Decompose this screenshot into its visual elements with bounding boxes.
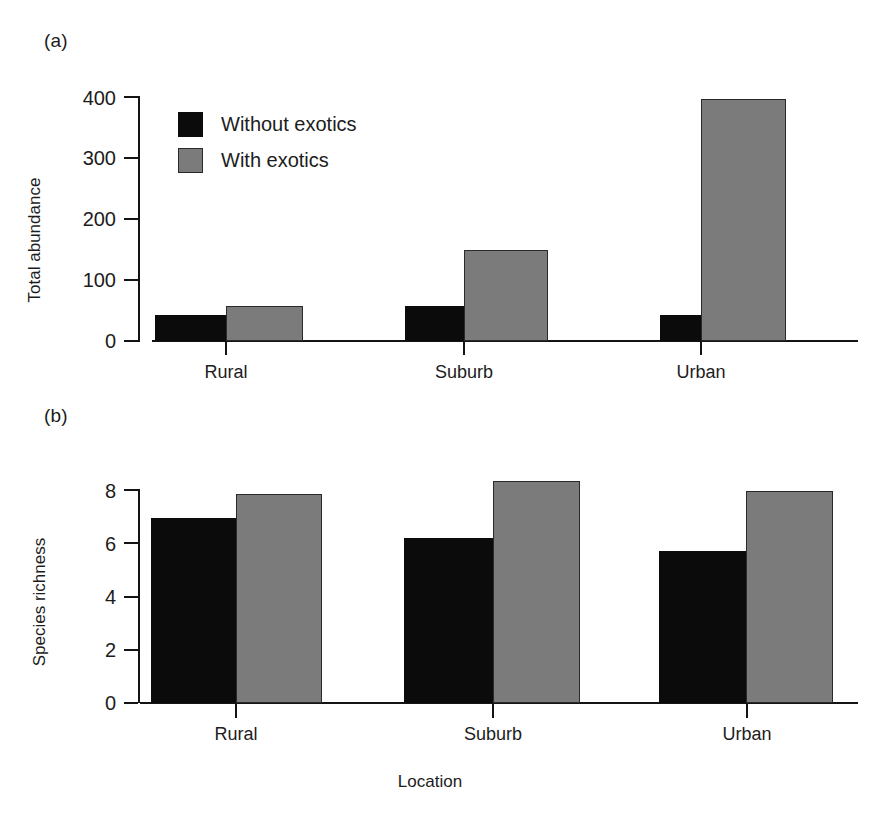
panel-a-tick-400	[124, 96, 138, 98]
panel-a-bar-suburb-with-exotics	[464, 250, 548, 341]
panel-b-tick-8	[124, 489, 138, 491]
panel-a-y-axis-label: Total abundance	[25, 150, 45, 330]
panel-b-xlabel-rural: Rural	[176, 724, 296, 745]
panel-b-tick-6	[124, 542, 138, 544]
panel-b-tick-0	[124, 702, 138, 704]
panel-b-label: (b)	[44, 405, 68, 427]
panel-b-tick-4	[124, 596, 138, 598]
panel-a-xtick-rural	[225, 342, 227, 355]
panel-b-ytick-6: 6	[58, 534, 116, 554]
panel-a-y-spine	[138, 96, 140, 342]
panel-a-tick-200	[124, 218, 138, 220]
panel-b-bar-urban-with-exotics	[746, 491, 833, 703]
panel-b-xlabel-urban: Urban	[687, 724, 807, 745]
panel-a-ytick-400: 400	[58, 88, 116, 108]
panel-b-tick-2	[124, 649, 138, 651]
legend-item-with-exotics: With exotics	[178, 148, 357, 173]
panel-b-y-axis-label: Species richness	[30, 512, 50, 692]
panel-a-bar-urban-with-exotics	[701, 99, 786, 341]
panel-b-bar-suburb-with-exotics	[493, 481, 580, 703]
panel-b-ytick-2: 2	[58, 640, 116, 660]
legend: Without exotics With exotics	[178, 112, 357, 184]
panel-a-ytick-300: 300	[58, 148, 116, 168]
panel-b-ytick-4: 4	[58, 587, 116, 607]
legend-label-without-exotics: Without exotics	[221, 113, 357, 136]
panel-a-ytick-0: 0	[58, 331, 116, 351]
panel-a-bar-rural-without-exotics	[155, 315, 226, 341]
panel-a-tick-0	[124, 340, 138, 342]
panel-b-bar-suburb-without-exotics	[404, 538, 493, 703]
panel-b-bar-rural-with-exotics	[236, 494, 322, 703]
figure-container: (a) Total abundance 400 300 200 100 0 Ru…	[0, 0, 870, 824]
legend-swatch-without-exotics	[178, 112, 203, 137]
panel-a-xlabel-suburb: Suburb	[404, 362, 524, 383]
panel-a-bar-suburb-without-exotics	[405, 306, 464, 341]
panel-a-ytick-200: 200	[58, 209, 116, 229]
panel-b-xtick-rural	[235, 704, 237, 718]
panel-a-xlabel-urban: Urban	[641, 362, 761, 383]
legend-label-with-exotics: With exotics	[221, 149, 329, 172]
panel-a-xtick-urban	[700, 342, 702, 355]
panel-b-xtick-urban	[746, 704, 748, 718]
panel-b-bar-rural-without-exotics	[151, 518, 236, 703]
panel-b-bar-urban-without-exotics	[659, 551, 746, 703]
panel-a-xtick-suburb	[463, 342, 465, 355]
legend-item-without-exotics: Without exotics	[178, 112, 357, 137]
panel-b-xlabel-suburb: Suburb	[433, 724, 553, 745]
panel-a-bar-rural-with-exotics	[226, 306, 303, 341]
x-axis-label: Location	[330, 772, 530, 792]
panel-a-tick-300	[124, 157, 138, 159]
panel-b-xtick-suburb	[492, 704, 494, 718]
panel-a-bar-urban-without-exotics	[660, 315, 701, 341]
panel-b-ytick-0: 0	[58, 693, 116, 713]
panel-a-ytick-100: 100	[58, 270, 116, 290]
panel-b-ytick-8: 8	[58, 481, 116, 501]
panel-a-xlabel-rural: Rural	[166, 362, 286, 383]
panel-b-y-spine	[138, 489, 140, 703]
panel-a-tick-100	[124, 279, 138, 281]
panel-a-label: (a)	[44, 30, 68, 52]
legend-swatch-with-exotics	[178, 148, 203, 173]
